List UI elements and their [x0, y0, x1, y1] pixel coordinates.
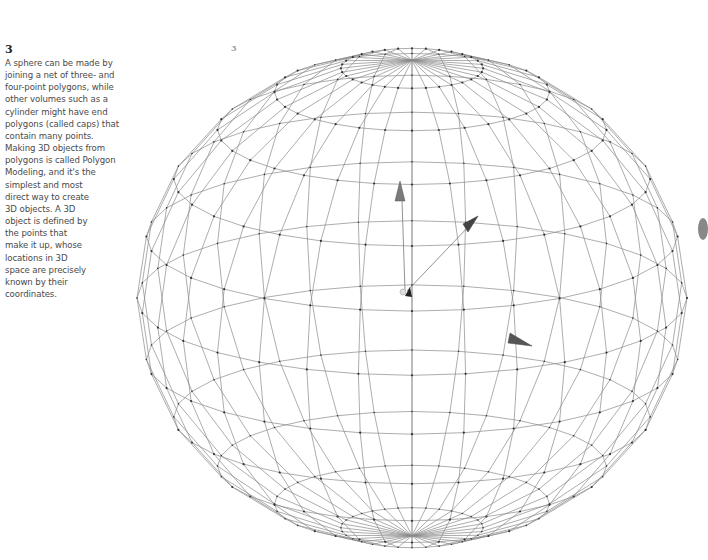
mesh-vertex — [384, 86, 386, 88]
mesh-vertex — [559, 421, 561, 423]
mesh-vertex — [580, 369, 582, 371]
mesh-vertex — [645, 165, 647, 167]
mesh-vertex — [340, 527, 342, 529]
mesh-vertex — [573, 159, 575, 161]
mesh-vertex — [384, 53, 386, 55]
mesh-vertex — [303, 510, 305, 512]
mesh-vertex — [213, 379, 215, 381]
mesh-vertex — [320, 354, 322, 356]
mesh-vertex — [335, 123, 337, 125]
mesh-vertex — [671, 250, 673, 252]
mesh-vertex — [665, 327, 667, 329]
mesh-vertex — [438, 508, 440, 510]
mesh-vertex — [508, 530, 510, 532]
mesh-vertex — [384, 49, 386, 51]
mesh-vertex — [340, 67, 342, 69]
mesh-vertex — [681, 282, 683, 284]
mesh-vertex — [544, 361, 546, 363]
mesh-vertex — [464, 56, 466, 58]
mesh-vertex — [482, 67, 484, 69]
mesh-vertex — [397, 87, 399, 89]
mesh-vertex — [463, 163, 465, 165]
mesh-vertex — [361, 81, 363, 83]
mesh-vertex — [341, 63, 343, 65]
mesh-vertex — [591, 108, 593, 110]
mesh-vertex — [450, 51, 452, 53]
mesh-vertex — [309, 304, 311, 306]
mesh-vertex — [672, 344, 674, 346]
mesh-vertex — [470, 78, 472, 80]
mesh-vertex — [303, 84, 305, 86]
mesh-vertex — [284, 106, 286, 108]
mesh-line — [412, 60, 517, 546]
mesh-vertex — [549, 427, 551, 429]
mesh-vertex — [250, 99, 252, 101]
mesh-vertex — [519, 510, 521, 512]
mesh-vertex — [276, 84, 278, 86]
mesh-vertex — [481, 531, 483, 533]
mesh-vertex — [438, 541, 440, 543]
mesh-vertex — [279, 361, 281, 363]
mesh-vertex — [371, 51, 373, 53]
mesh-vertex — [411, 483, 413, 485]
mesh-line — [137, 60, 412, 536]
mesh-vertex — [358, 221, 360, 223]
mesh-vertex — [579, 463, 581, 465]
mesh-vertex — [166, 264, 168, 266]
mesh-vertex — [438, 49, 440, 51]
mesh-vertex — [411, 130, 413, 132]
mesh-vertex — [183, 254, 185, 256]
mesh-vertex — [182, 340, 184, 342]
mesh-vertex — [502, 240, 504, 242]
mesh-vertex — [359, 163, 361, 165]
mesh-vertex — [150, 373, 152, 375]
mesh-vertex — [671, 373, 673, 375]
mesh-vertex — [284, 488, 286, 490]
mesh-vertex — [677, 235, 679, 237]
mesh-vertex — [213, 215, 215, 217]
mesh-vertex — [177, 191, 179, 193]
mesh-vertex — [314, 530, 316, 532]
mesh-vertex — [221, 455, 223, 457]
mesh-vertex — [516, 368, 518, 370]
mesh-vertex — [546, 496, 548, 498]
mesh-vertex — [191, 441, 193, 443]
mesh-vertex — [538, 106, 540, 108]
mesh-vertex — [602, 118, 604, 120]
mesh-vertex — [320, 117, 322, 119]
mesh-vertex — [411, 520, 413, 522]
mesh-vertex — [465, 373, 467, 375]
mesh-vertex — [463, 432, 465, 434]
mesh-vertex — [425, 87, 427, 89]
mesh-vertex — [373, 412, 375, 414]
mesh-vertex — [273, 167, 275, 169]
mesh-vertex — [151, 344, 153, 346]
mesh-vertex — [166, 387, 168, 389]
mesh-vertex — [314, 476, 316, 478]
mesh-vertex — [451, 544, 453, 546]
mesh-vertex — [546, 84, 548, 86]
mesh-vertex — [178, 165, 180, 167]
mesh-vertex — [221, 476, 223, 478]
mesh-vertex — [297, 70, 299, 72]
mesh-vertex — [345, 535, 347, 537]
mesh-vertex — [508, 64, 510, 66]
mesh-vertex — [632, 277, 634, 279]
mesh-vertex — [384, 129, 386, 131]
mesh-vertex — [345, 75, 347, 77]
mesh-vertex — [243, 131, 245, 133]
mesh-vertex — [602, 455, 604, 457]
mesh-line — [412, 54, 607, 536]
mesh-vertex — [449, 76, 451, 78]
mesh-vertex — [243, 369, 245, 371]
mesh-vertex — [297, 113, 299, 115]
mesh-vertex — [263, 421, 265, 423]
mesh-vertex — [657, 330, 659, 332]
mesh-vertex — [303, 420, 305, 422]
mesh-vertex — [297, 482, 299, 484]
mesh-vertex — [276, 496, 278, 498]
mesh-vertex — [605, 129, 607, 131]
mesh-vertex — [485, 179, 487, 181]
mesh-vertex — [249, 159, 251, 161]
